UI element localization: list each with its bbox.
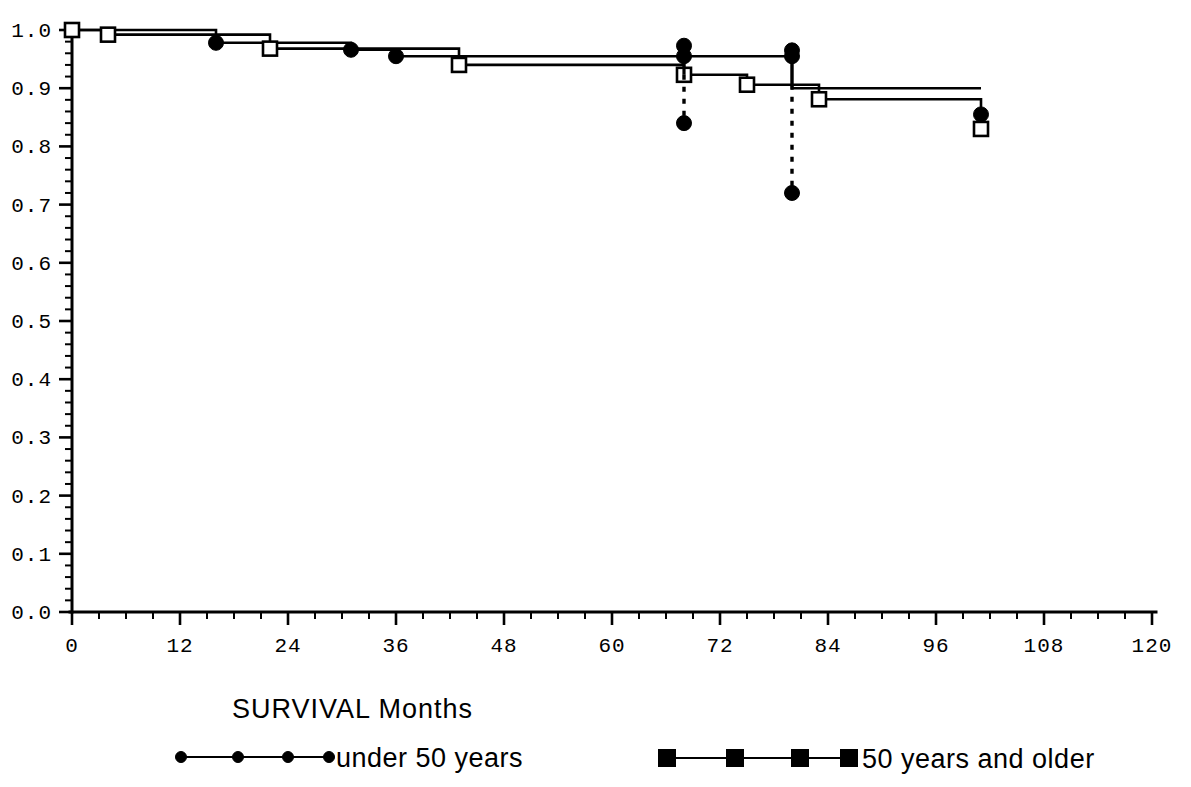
series-over-50 bbox=[65, 23, 988, 136]
data-point-marker-square bbox=[263, 42, 277, 56]
legend-label-50-and-older: 50 years and older bbox=[862, 744, 1095, 774]
legend-marker-square bbox=[726, 749, 744, 767]
legend-marker-circle bbox=[176, 752, 187, 763]
legend-entry-under-50[interactable]: under 50 years bbox=[176, 743, 524, 773]
x-tick-label: 84 bbox=[814, 635, 841, 658]
series-layer bbox=[65, 23, 989, 136]
y-tick-label: 0.2 bbox=[11, 486, 52, 509]
legend-marker-circle bbox=[283, 752, 294, 763]
x-tick-label: 60 bbox=[598, 635, 625, 658]
y-tick-label: 1.0 bbox=[11, 20, 52, 43]
data-point-marker-square bbox=[452, 58, 466, 72]
chart-title: SURVIVAL Months bbox=[232, 694, 473, 724]
legend-marker-square bbox=[658, 749, 676, 767]
error-bars-layer bbox=[677, 38, 800, 200]
legend-marker-circle bbox=[233, 752, 244, 763]
x-tick-label: 36 bbox=[382, 635, 409, 658]
error-bar-upper-cap bbox=[677, 38, 692, 53]
x-tick-label: 120 bbox=[1132, 635, 1173, 658]
x-axis: 01224364860728496108120 bbox=[65, 612, 1172, 658]
y-tick-label: 0.3 bbox=[11, 427, 52, 450]
x-tick-label: 96 bbox=[922, 635, 949, 658]
data-point-marker-circle bbox=[389, 49, 404, 64]
data-point-marker-square bbox=[101, 28, 115, 42]
kaplan-meier-survival-plot: 0.00.10.20.30.40.50.60.70.80.91.0 012243… bbox=[0, 0, 1191, 787]
y-tick-label: 0.1 bbox=[11, 544, 52, 567]
data-point-marker-square bbox=[812, 92, 826, 106]
x-tick-label: 48 bbox=[490, 635, 517, 658]
legend-marker-square bbox=[791, 749, 809, 767]
data-point-marker-square bbox=[974, 122, 988, 136]
chart-legend: SURVIVAL Monthsunder 50 years50 years an… bbox=[176, 694, 1095, 774]
y-tick-label: 0.6 bbox=[11, 253, 52, 276]
survival-step-line bbox=[72, 30, 981, 88]
y-tick-label: 0.8 bbox=[11, 136, 52, 159]
error-bar bbox=[785, 43, 800, 201]
series-under-50 bbox=[65, 23, 989, 122]
error-bar-lower-cap bbox=[785, 185, 800, 200]
y-tick-label: 0.5 bbox=[11, 311, 52, 334]
error-bar-upper-cap bbox=[785, 43, 800, 58]
x-tick-label: 24 bbox=[274, 635, 301, 658]
survival-chart-figure: 0.00.10.20.30.40.50.60.70.80.91.0 012243… bbox=[0, 0, 1191, 787]
x-tick-label: 72 bbox=[706, 635, 733, 658]
y-tick-label: 0.7 bbox=[11, 195, 52, 218]
legend-marker-circle bbox=[324, 752, 335, 763]
legend-entry-50-and-older[interactable]: 50 years and older bbox=[658, 744, 1095, 774]
y-tick-label: 0.9 bbox=[11, 78, 52, 101]
error-bar-lower-cap bbox=[677, 116, 692, 131]
legend-label-under-50: under 50 years bbox=[336, 743, 523, 773]
x-tick-label: 12 bbox=[166, 635, 193, 658]
y-tick-label: 0.0 bbox=[11, 602, 52, 625]
legend-marker-square bbox=[840, 749, 858, 767]
data-point-marker-square bbox=[740, 78, 754, 92]
x-tick-label: 108 bbox=[1024, 635, 1065, 658]
x-tick-label: 0 bbox=[65, 635, 79, 658]
data-point-marker-circle bbox=[209, 35, 224, 50]
y-axis: 0.00.10.20.30.40.50.60.70.80.91.0 bbox=[11, 20, 72, 625]
y-tick-label: 0.4 bbox=[11, 369, 52, 392]
data-point-marker-square bbox=[65, 23, 79, 37]
